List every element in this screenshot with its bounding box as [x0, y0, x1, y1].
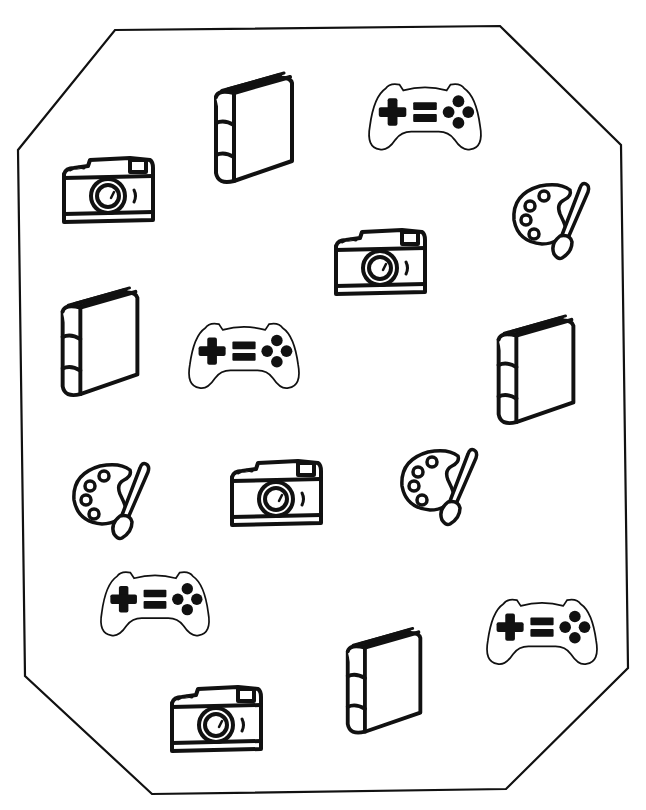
camera-item — [228, 458, 324, 530]
camera-item — [332, 228, 428, 298]
book-item — [492, 312, 582, 430]
palette-item — [510, 180, 592, 262]
book-item — [56, 284, 146, 402]
gamepad-icon — [366, 76, 484, 156]
palette-icon — [510, 180, 592, 262]
camera-item — [60, 156, 156, 226]
gamepad-item — [98, 564, 212, 642]
camera-icon — [60, 156, 156, 226]
book-icon — [56, 284, 146, 402]
gamepad-icon — [186, 316, 302, 394]
palette-item — [398, 446, 480, 528]
palette-icon — [398, 446, 480, 528]
gamepad-item — [366, 76, 484, 156]
camera-item — [168, 684, 264, 756]
gamepad-item — [484, 592, 600, 670]
gamepad-icon — [98, 564, 212, 642]
book-icon — [492, 312, 582, 430]
camera-icon — [332, 228, 428, 298]
palette-item — [70, 460, 152, 542]
book-icon — [210, 68, 300, 190]
gamepad-item — [186, 316, 302, 394]
book-item — [342, 620, 428, 744]
gamepad-icon — [484, 592, 600, 670]
camera-icon — [228, 458, 324, 530]
camera-icon — [168, 684, 264, 756]
book-item — [210, 68, 300, 190]
palette-icon — [70, 460, 152, 542]
book-icon — [342, 620, 428, 744]
